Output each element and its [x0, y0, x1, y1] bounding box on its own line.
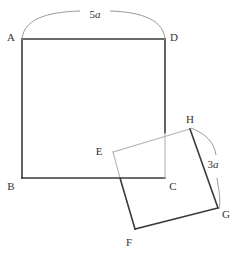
segment-fg [135, 208, 218, 229]
dimension-label-top: 5a [90, 8, 102, 20]
brace-top-left [22, 11, 80, 40]
vertex-label-a: A [7, 31, 15, 43]
segment-eh [113, 129, 190, 152]
vertex-label-h: H [186, 113, 194, 125]
vertex-label-g: G [222, 208, 230, 220]
dimension-label-right: 3a [208, 158, 220, 170]
dimension-top-unit: a [95, 8, 101, 20]
segment-ef-outer [120, 178, 135, 229]
vertex-label-e: E [96, 145, 103, 157]
segment-ef-inner [113, 152, 120, 178]
brace-top-right [110, 11, 165, 40]
vertex-label-c: C [169, 180, 176, 192]
vertex-label-d: D [170, 31, 178, 43]
vertex-label-f: F [126, 236, 132, 248]
geometry-figure: A B C D E F G H 5a 3a [0, 0, 236, 255]
vertex-label-b: B [7, 180, 14, 192]
dimension-right-unit: a [213, 158, 219, 170]
